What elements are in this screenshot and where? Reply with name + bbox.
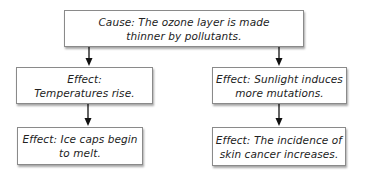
effect-line-2: to melt.: [22, 146, 137, 160]
effect-line-1: Effect: The incidence of: [216, 133, 342, 147]
effect-box-ice-caps: Effect: Ice caps begin to melt.: [17, 127, 143, 165]
effect-box-temperatures: Effect: Temperatures rise.: [16, 67, 153, 104]
effect-line-1: Effect: Ice caps begin: [22, 132, 137, 146]
effect-line-2: skin cancer increases.: [216, 147, 342, 161]
cause-line-2: thinner by pollutants.: [98, 29, 269, 43]
effect-box-mutations: Effect: Sunlight induces more mutations.: [212, 67, 347, 104]
effect-line-1: Effect:: [34, 72, 134, 86]
effect-box-skin-cancer: Effect: The incidence of skin cancer inc…: [212, 127, 346, 166]
effect-line-2: Temperatures rise.: [34, 86, 134, 100]
effect-line-2: more mutations.: [216, 86, 343, 100]
cause-line-1: Cause: The ozone layer is made: [98, 15, 269, 29]
effect-line-1: Effect: Sunlight induces: [216, 72, 343, 86]
cause-box: Cause: The ozone layer is made thinner b…: [64, 10, 304, 47]
